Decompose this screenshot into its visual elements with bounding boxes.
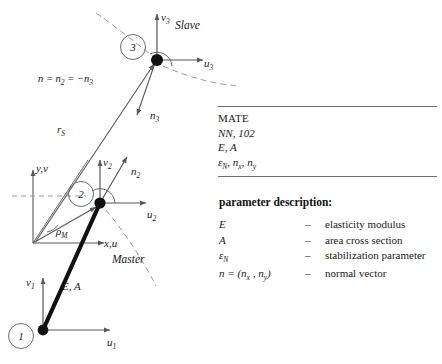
parameter-dash: –: [305, 266, 325, 282]
global-axes: [33, 170, 104, 243]
mate-table-row-ea: E, A: [218, 140, 437, 155]
parameter-dash: –: [305, 217, 325, 233]
parameter-row: A – area cross section: [219, 233, 441, 249]
label-n2: n2: [131, 166, 140, 180]
mate-table: MATE NN, 102 E, A εN, nx, ny: [218, 106, 437, 177]
parameter-description-list: E – elasticity modulus A – area cross se…: [219, 217, 441, 284]
label-rho-m: ρM: [56, 226, 68, 240]
parameter-description: area cross section: [325, 233, 403, 249]
normal-vector-equation: n = n2 = −n3: [38, 73, 93, 87]
label-global-x-axis: x,u: [104, 238, 117, 249]
parameter-dash: –: [305, 248, 325, 264]
parameter-row: E – elasticity modulus: [219, 217, 441, 233]
parameter-description-title: parameter description:: [219, 196, 441, 208]
region-label-slave: Slave: [175, 19, 200, 31]
region-label-master: Master: [112, 253, 145, 265]
label-v1: v1: [26, 277, 35, 291]
node-number-1: 1: [14, 331, 28, 342]
mate-table-row-normals: εN, nx, ny: [218, 155, 437, 172]
n3-normal-vector: [137, 63, 155, 115]
label-u1: u1: [107, 337, 116, 351]
parameter-symbol: n = (nx , ny): [219, 266, 305, 284]
figure-root: 1 2 3 v3 u3 n3 v2 u2 n2 v1 u1 E, A y,v x…: [0, 0, 442, 364]
parameter-symbol: E: [219, 217, 305, 233]
parameter-row: εN – stabilization parameter: [219, 248, 441, 266]
parameter-symbol: εN: [219, 248, 305, 266]
contact-surface-dashed-curves: [96, 13, 238, 286]
parameter-description: elasticity modulus: [325, 217, 405, 233]
parameter-description: stabilization parameter: [325, 248, 425, 264]
label-r-s: rS: [57, 124, 65, 138]
parameter-dash: –: [305, 233, 325, 249]
label-u3: u3: [204, 58, 213, 72]
label-bar-properties: E, A: [62, 281, 81, 292]
parameter-description: normal vector: [325, 266, 386, 282]
parameter-row: n = (nx , ny) – normal vector: [219, 266, 441, 284]
label-v3: v3: [161, 12, 170, 26]
truss-contact-diagram: [0, 0, 442, 364]
parameter-symbol: A: [219, 233, 305, 249]
node-number-2: 2: [74, 189, 88, 200]
mate-table-rule-bottom: [218, 176, 437, 177]
label-global-y-axis: y,v: [36, 163, 48, 174]
label-n3: n3: [150, 110, 159, 124]
node-number-3: 3: [126, 42, 140, 53]
label-v2: v2: [103, 157, 112, 171]
mate-table-row-nn: NN, 102: [218, 126, 437, 141]
truss-bar-element: [43, 203, 100, 330]
label-u2: u2: [147, 209, 156, 223]
parameter-description-block: parameter description: E – elasticity mo…: [219, 196, 441, 284]
mate-table-row-keyword: MATE: [218, 111, 437, 126]
mate-table-rule-top: [218, 106, 437, 107]
